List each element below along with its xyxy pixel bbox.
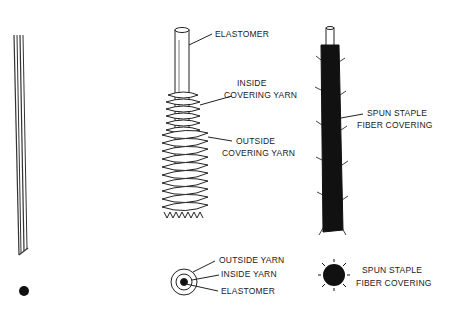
bare-elastomer-figure bbox=[14, 35, 28, 255]
label-outside-covering-1: OUTSIDE bbox=[236, 136, 275, 147]
label-cs-spun-staple-2: FIBER COVERING bbox=[356, 278, 432, 289]
label-elastomer: ELASTOMER bbox=[215, 29, 269, 40]
core-spun-cross-section bbox=[318, 259, 350, 291]
label-cs-spun-staple-1: SPUN STAPLE bbox=[362, 265, 422, 276]
core-spun-figure bbox=[315, 27, 363, 236]
label-inside-covering-2: COVERING YARN bbox=[224, 90, 297, 101]
label-cs-elastomer: ELASTOMER bbox=[221, 286, 275, 297]
label-cs-inside-yarn: INSIDE YARN bbox=[221, 269, 277, 280]
label-inside-covering-1: INSIDE bbox=[237, 78, 267, 89]
label-spun-staple-1: SPUN STAPLE bbox=[367, 108, 427, 119]
label-cs-outside-yarn: OUTSIDE YARN bbox=[219, 255, 284, 266]
label-outside-covering-2: COVERING YARN bbox=[222, 148, 295, 159]
covered-yarn-cross-section bbox=[171, 261, 219, 295]
bare-elastomer-cross-section bbox=[19, 286, 29, 296]
covered-yarn-figure bbox=[162, 28, 232, 219]
label-spun-staple-2: FIBER COVERING bbox=[357, 120, 433, 131]
